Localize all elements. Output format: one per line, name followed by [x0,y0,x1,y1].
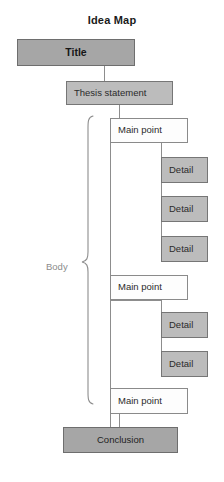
node-detail-5[interactable]: Detail [161,351,208,377]
page-title: Idea Map [0,14,224,26]
body-bracket-label: Body [46,261,68,272]
node-main-point-3[interactable]: Main point [110,388,188,414]
node-detail-4[interactable]: Detail [161,312,208,338]
connector-title-to-thesis [104,65,105,81]
node-main-point-2[interactable]: Main point [110,275,188,300]
node-title[interactable]: Title [17,39,135,66]
connector-mainpoint2-branch [110,300,162,301]
connector-thesis-to-spine [119,104,120,118]
node-main-point-1[interactable]: Main point [110,118,188,143]
node-conclusion[interactable]: Conclusion [63,427,178,453]
node-detail-3[interactable]: Detail [161,236,208,262]
connector-main-spine [110,118,111,428]
idea-map-diagram: Idea Map Body Title Thesis statement Mai… [0,0,224,482]
connector-mainpoint-to-conclusion [119,414,120,428]
node-detail-2[interactable]: Detail [161,196,208,222]
node-thesis-statement[interactable]: Thesis statement [66,81,173,105]
node-detail-1[interactable]: Detail [161,157,208,183]
body-brace-icon [80,114,96,406]
